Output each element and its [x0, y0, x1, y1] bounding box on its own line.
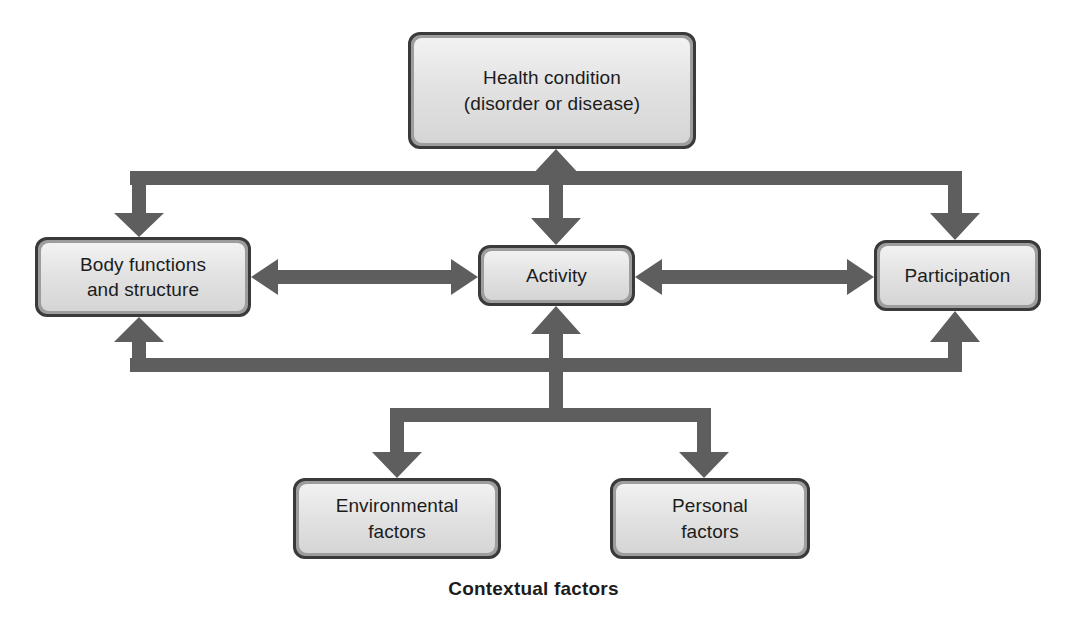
icf-diagram: Health condition (disorder or disease) B…: [0, 0, 1067, 625]
node-participation-body: Participation: [880, 246, 1035, 305]
contextual-factors-caption: Contextual factors: [0, 578, 1067, 600]
body-activity-double-arrow: [251, 259, 478, 295]
node-personal-factors[interactable]: Personal factors: [610, 478, 810, 559]
node-activity[interactable]: Activity: [478, 245, 635, 306]
node-environmental-factors-body: Environmental factors: [299, 484, 495, 553]
health-activity-double-arrow: [531, 149, 581, 245]
node-health-condition-body: Health condition (disorder or disease): [414, 38, 690, 143]
node-participation-label: Participation: [899, 263, 1017, 288]
node-activity-label: Activity: [520, 263, 593, 288]
node-activity-body: Activity: [484, 251, 629, 300]
node-health-condition[interactable]: Health condition (disorder or disease): [408, 32, 696, 149]
node-body-functions-and-structure-body: Body functions and structure: [41, 243, 245, 311]
contextual-fork-connector: [372, 306, 729, 478]
node-participation[interactable]: Participation: [874, 240, 1041, 311]
node-personal-factors-label: Personal factors: [666, 493, 754, 543]
node-body-functions-and-structure-label: Body functions and structure: [74, 252, 212, 302]
node-environmental-factors[interactable]: Environmental factors: [293, 478, 501, 559]
activity-participation-double-arrow: [635, 259, 874, 295]
node-environmental-factors-label: Environmental factors: [330, 493, 465, 543]
node-personal-factors-body: Personal factors: [616, 484, 804, 553]
node-body-functions-and-structure[interactable]: Body functions and structure: [35, 237, 251, 317]
node-health-condition-label: Health condition (disorder or disease): [458, 65, 646, 115]
